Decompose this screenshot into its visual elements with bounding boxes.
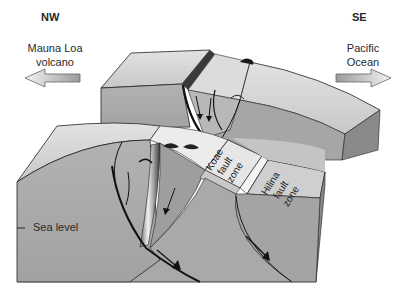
- left-arrow-icon: [25, 69, 80, 87]
- pacific-ocean-line2: Ocean: [336, 55, 390, 69]
- sea-level-label: Sea level: [33, 221, 78, 233]
- mauna-loa-line2: volcano: [22, 55, 88, 69]
- pacific-ocean-label: Pacific Ocean: [336, 41, 390, 69]
- mauna-loa-line1: Mauna Loa: [22, 41, 88, 55]
- right-arrow-icon: [336, 69, 391, 87]
- nw-direction-label: NW: [41, 11, 59, 23]
- se-direction-label: SE: [352, 11, 367, 23]
- pacific-ocean-line1: Pacific: [336, 41, 390, 55]
- mauna-loa-label: Mauna Loa volcano: [22, 41, 88, 69]
